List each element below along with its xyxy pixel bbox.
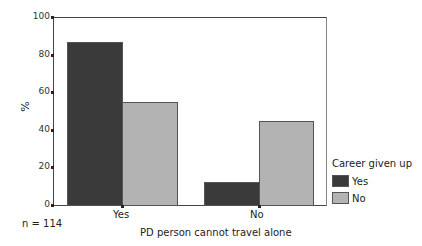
x-tick-mark	[258, 205, 261, 208]
legend: Career given up Yes No	[332, 158, 412, 209]
y-tick-20: 20	[26, 161, 50, 171]
tick-mark	[51, 91, 54, 94]
bar-yes-careerno	[122, 102, 178, 206]
x-category-no: No	[250, 209, 264, 220]
legend-item-yes: Yes	[332, 175, 412, 187]
legend-swatch-light	[332, 192, 349, 204]
bar-yes-careeryes	[67, 42, 123, 206]
y-tick-0: 0	[26, 199, 50, 209]
x-axis-title: PD person cannot travel alone	[140, 227, 292, 238]
tick-mark	[51, 204, 54, 207]
x-tick-mark	[121, 205, 124, 208]
legend-item-no: No	[332, 192, 412, 204]
tick-mark	[51, 16, 54, 19]
legend-title: Career given up	[332, 158, 412, 169]
y-tick-100: 100	[26, 11, 50, 21]
sample-size: n = 114	[22, 218, 62, 229]
y-axis-label: %	[19, 101, 32, 111]
bar-no-careeryes	[204, 182, 260, 206]
legend-label: No	[352, 193, 366, 204]
tick-mark	[51, 54, 54, 57]
legend-label: Yes	[352, 176, 368, 187]
bar-no-careerno	[259, 121, 314, 206]
legend-swatch-dark	[332, 175, 349, 187]
tick-mark	[51, 166, 54, 169]
y-tick-60: 60	[26, 86, 50, 96]
y-tick-40: 40	[26, 124, 50, 134]
x-category-yes: Yes	[113, 209, 129, 220]
tick-mark	[51, 129, 54, 132]
y-tick-80: 80	[26, 49, 50, 59]
